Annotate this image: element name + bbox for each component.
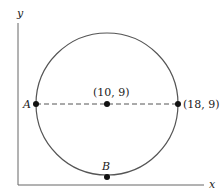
center-label: (10, 9) [93,86,130,99]
x-axis-label: x [209,178,216,191]
center-dot [104,101,110,107]
y-axis-label: y [16,7,24,20]
point-b-label: B [101,160,110,173]
point-b-dot [104,174,110,180]
point-a-label: A [22,98,31,111]
circle-diagram: y x A (10, 9) (18, 9) B [0,0,222,192]
point-a-dot [33,101,39,107]
right-point-label: (18, 9) [183,98,220,111]
right-point-dot [175,101,181,107]
